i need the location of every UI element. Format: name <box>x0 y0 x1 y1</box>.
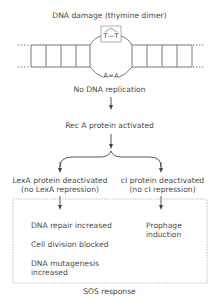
arrow-to-sos-left <box>58 205 62 210</box>
dna-ladder-right <box>132 45 192 67</box>
sos-item-mutagenesis-1: DNA mutagenesis <box>31 259 99 268</box>
sos-item-mutagenesis-2: increased <box>31 268 68 277</box>
ci-line2: (no cI repression) <box>110 185 215 194</box>
arrow-down-1 <box>109 105 113 110</box>
lexa-line2: (no LexA repression) <box>5 185 115 194</box>
no-replication-label: No DNA replication <box>0 85 219 94</box>
arrow-right-branch <box>159 168 163 173</box>
branch-bracket <box>60 151 161 167</box>
lexa-line1: LexA protein deactivated <box>5 176 115 185</box>
sos-item-prophage-2: induction <box>146 230 181 239</box>
reca-label: Rec A protein activated <box>0 121 219 130</box>
sos-item-repair: DNA repair increased <box>31 221 112 230</box>
arrow-down-2 <box>109 144 113 149</box>
bubble-top-right <box>121 36 132 45</box>
sos-response-label: SOS response <box>0 287 219 296</box>
dna-ladder-left <box>31 45 90 67</box>
arrow-to-sos-right <box>159 205 163 210</box>
bubble-top-left <box>90 36 101 45</box>
base-pair-label: A=A <box>96 72 126 81</box>
arrow-left-branch <box>58 168 62 173</box>
sos-item-prophage-1: Prophage <box>146 221 182 230</box>
dimer-label: T—T <box>101 32 121 41</box>
ci-line1: cI protein deactivated <box>110 176 215 185</box>
sos-item-division: Cell division blocked <box>31 240 108 249</box>
title-label: DNA damage (thymine dimer) <box>0 11 219 20</box>
